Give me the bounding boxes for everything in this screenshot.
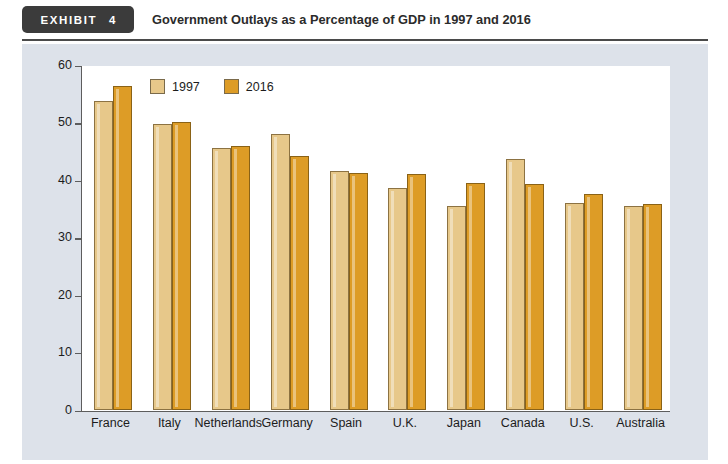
bars-layer <box>84 66 671 410</box>
bar-france-2016[interactable] <box>113 86 132 409</box>
bar-highlight <box>469 186 472 407</box>
bar-highlight <box>627 209 630 406</box>
bar-highlight <box>352 176 355 407</box>
bar-group <box>565 66 603 410</box>
y-axis-tick: 40 <box>0 181 81 182</box>
bar-highlight <box>509 162 512 406</box>
exhibit-header: EXHIBIT 4 Government Outlays as a Percen… <box>0 0 728 43</box>
x-axis-label-australia: Australia <box>616 416 665 430</box>
bar-italy-1997[interactable] <box>153 124 172 409</box>
bar-highlight <box>156 127 159 406</box>
bar-highlight <box>587 197 590 407</box>
y-axis-tick: 0 <box>0 411 81 412</box>
y-axis-tick: 30 <box>0 238 81 239</box>
bar-group <box>271 66 309 410</box>
x-axis-label-france: France <box>91 416 130 430</box>
bar-highlight <box>274 137 277 406</box>
x-axis-label-spain: Spain <box>330 416 362 430</box>
bar-group <box>388 66 426 410</box>
y-axis-tick-label: 40 <box>58 173 72 187</box>
bar-group <box>330 66 368 410</box>
bar-spain-2016[interactable] <box>349 173 368 410</box>
bar-highlight <box>293 159 296 406</box>
bar-australia-2016[interactable] <box>643 204 662 410</box>
bar-u-s--2016[interactable] <box>584 194 603 410</box>
bar-netherlands-1997[interactable] <box>212 148 231 410</box>
bar-u-k--2016[interactable] <box>407 174 426 410</box>
bar-group <box>624 66 662 410</box>
bar-netherlands-2016[interactable] <box>231 146 250 410</box>
header-divider <box>22 39 708 41</box>
bar-highlight <box>568 206 571 406</box>
y-axis-tick-label: 30 <box>58 230 72 244</box>
bar-japan-2016[interactable] <box>466 183 485 410</box>
x-axis-label-netherlands: Netherlands <box>195 416 262 430</box>
bar-highlight <box>215 151 218 407</box>
bar-spain-1997[interactable] <box>330 171 349 410</box>
bar-canada-1997[interactable] <box>506 159 525 409</box>
y-axis-tick: 50 <box>0 123 81 124</box>
bar-group <box>506 66 544 410</box>
y-axis-tick-label: 20 <box>58 288 72 302</box>
bar-germany-1997[interactable] <box>271 134 290 409</box>
bar-highlight <box>333 174 336 407</box>
y-axis-tick-label: 50 <box>58 115 72 129</box>
x-axis-label-italy: Italy <box>158 416 181 430</box>
y-axis-tick: 60 <box>0 66 81 67</box>
bar-highlight <box>528 187 531 407</box>
bar-group <box>94 66 132 410</box>
bar-highlight <box>450 209 453 406</box>
exhibit-figure-page: EXHIBIT 4 Government Outlays as a Percen… <box>0 0 728 464</box>
x-axis-labels: FranceItalyNetherlandsGermanySpainU.K.Ja… <box>81 416 670 440</box>
bar-australia-1997[interactable] <box>624 206 643 409</box>
exhibit-badge-number: 4 <box>109 14 115 26</box>
y-axis: 6050403020100 <box>0 66 81 412</box>
bar-highlight <box>234 149 237 407</box>
bar-group <box>212 66 250 410</box>
bar-group <box>153 66 191 410</box>
y-axis-tick-label: 0 <box>65 403 72 417</box>
bar-group <box>447 66 485 410</box>
y-axis-tick-label: 10 <box>58 345 72 359</box>
exhibit-badge: EXHIBIT 4 <box>22 6 134 33</box>
bar-highlight <box>97 104 100 407</box>
y-axis-tick-label: 60 <box>58 58 72 72</box>
exhibit-title: Government Outlays as a Percentage of GD… <box>152 12 531 27</box>
bar-canada-2016[interactable] <box>525 184 544 410</box>
x-axis-label-u-k-: U.K. <box>393 416 417 430</box>
x-axis-label-u-s-: U.S. <box>569 416 593 430</box>
bar-japan-1997[interactable] <box>447 206 466 409</box>
bar-germany-2016[interactable] <box>290 156 309 409</box>
bar-italy-2016[interactable] <box>172 122 191 409</box>
bar-u-k--1997[interactable] <box>388 188 407 409</box>
exhibit-badge-word: EXHIBIT <box>41 14 98 26</box>
x-axis-label-japan: Japan <box>447 416 481 430</box>
bar-highlight <box>391 191 394 406</box>
bar-highlight <box>116 89 119 406</box>
bar-u-s--1997[interactable] <box>565 203 584 409</box>
bar-france-1997[interactable] <box>94 101 113 410</box>
y-axis-tick: 10 <box>0 353 81 354</box>
bar-highlight <box>175 125 178 406</box>
plot-area: 19972016 <box>81 66 670 412</box>
x-axis-label-canada: Canada <box>501 416 545 430</box>
bar-highlight <box>410 177 413 407</box>
x-axis-label-germany: Germany <box>261 416 312 430</box>
y-axis-tick: 20 <box>0 296 81 297</box>
bar-highlight <box>646 207 649 407</box>
